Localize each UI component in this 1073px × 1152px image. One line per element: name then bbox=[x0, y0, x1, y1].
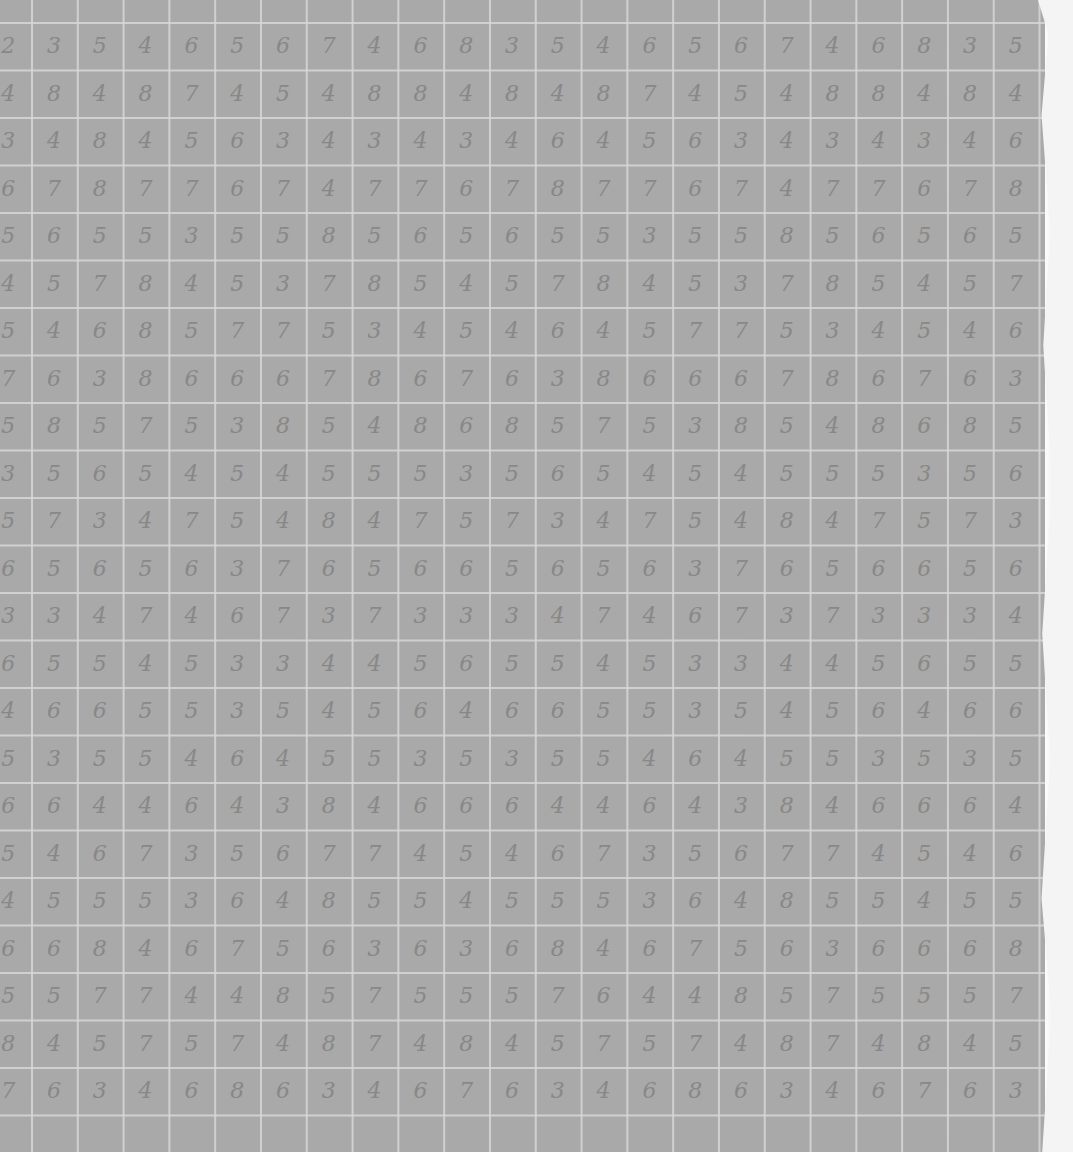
digit-cell: 4 bbox=[581, 307, 627, 354]
digit-cell: 7 bbox=[443, 355, 489, 402]
digit-cell: 4 bbox=[397, 830, 443, 877]
digit-cell: 4 bbox=[718, 735, 764, 782]
digit-cell: 3 bbox=[718, 640, 764, 687]
digit-cell: 6 bbox=[0, 640, 31, 687]
digit-cell: 8 bbox=[993, 925, 1039, 972]
digit-cell: 4 bbox=[810, 782, 856, 829]
digit-cell: 4 bbox=[855, 830, 901, 877]
digit-cell: 5 bbox=[581, 735, 627, 782]
digit-cell: 6 bbox=[397, 1067, 443, 1114]
digit-cell: 4 bbox=[489, 1020, 535, 1067]
digit-cell: 4 bbox=[810, 1067, 856, 1114]
digit-cell: 6 bbox=[77, 545, 123, 592]
digit-cell: 7 bbox=[123, 165, 169, 212]
digit-cell: 5 bbox=[214, 260, 260, 307]
digit-cell: 8 bbox=[581, 355, 627, 402]
digit-cell: 5 bbox=[947, 640, 993, 687]
digit-cell: 7 bbox=[672, 1020, 718, 1067]
digit-cell: 7 bbox=[260, 307, 306, 354]
digit-cell: 5 bbox=[0, 212, 31, 259]
digit-cell: 4 bbox=[352, 402, 398, 449]
digit-cell: 3 bbox=[31, 22, 77, 69]
digit-cell: 6 bbox=[31, 1067, 77, 1114]
digit-cell: 3 bbox=[352, 307, 398, 354]
digit-cell: 7 bbox=[0, 1067, 31, 1114]
digit-cell: 8 bbox=[764, 497, 810, 544]
digit-cell: 3 bbox=[77, 355, 123, 402]
digit-cell: 5 bbox=[168, 402, 214, 449]
digit-cell: 8 bbox=[764, 782, 810, 829]
digit-cell: 7 bbox=[306, 830, 352, 877]
digit-cell: 6 bbox=[0, 925, 31, 972]
digit-cell: 5 bbox=[764, 735, 810, 782]
digit-cell: 4 bbox=[397, 117, 443, 164]
digit-cell: 7 bbox=[489, 497, 535, 544]
digit-cell: 4 bbox=[77, 782, 123, 829]
digit-cell: 5 bbox=[77, 1020, 123, 1067]
digit-cell: 7 bbox=[581, 830, 627, 877]
digit-cell: 8 bbox=[306, 212, 352, 259]
digit-cell: 5 bbox=[718, 687, 764, 734]
digit-cell: 7 bbox=[77, 972, 123, 1019]
digit-cell: 4 bbox=[306, 70, 352, 117]
digit-cell: 5 bbox=[214, 830, 260, 877]
digit-cell: 3 bbox=[810, 925, 856, 972]
digit-cell: 4 bbox=[123, 117, 169, 164]
digit-cell: 7 bbox=[810, 830, 856, 877]
digit-cell: 6 bbox=[993, 307, 1039, 354]
digit-cell: 7 bbox=[31, 497, 77, 544]
digit-cell: 7 bbox=[581, 165, 627, 212]
digit-cell: 5 bbox=[810, 877, 856, 924]
digit-cell: 5 bbox=[718, 70, 764, 117]
digit-cell: 3 bbox=[489, 592, 535, 639]
digit-cell: 8 bbox=[31, 70, 77, 117]
digit-cell: 6 bbox=[489, 782, 535, 829]
digit-cell: 3 bbox=[306, 1067, 352, 1114]
digit-cell: 3 bbox=[901, 592, 947, 639]
digit-cell: 3 bbox=[672, 687, 718, 734]
digit-cell: 7 bbox=[718, 545, 764, 592]
digit-cell: 5 bbox=[855, 972, 901, 1019]
digit-cell: 3 bbox=[260, 640, 306, 687]
digit-cell: 5 bbox=[947, 260, 993, 307]
digit-cell: 4 bbox=[443, 877, 489, 924]
digit-cell: 4 bbox=[168, 972, 214, 1019]
digit-cell: 8 bbox=[764, 1020, 810, 1067]
digit-cell: 5 bbox=[397, 972, 443, 1019]
digit-cell: 3 bbox=[764, 592, 810, 639]
digit-cell: 8 bbox=[810, 355, 856, 402]
digit-cell: 7 bbox=[810, 165, 856, 212]
digit-cell: 5 bbox=[0, 497, 31, 544]
digit-cell: 5 bbox=[947, 450, 993, 497]
digit-cell: 5 bbox=[123, 450, 169, 497]
digit-cell: 7 bbox=[0, 355, 31, 402]
digit-cell: 8 bbox=[489, 70, 535, 117]
digit-cell: 5 bbox=[581, 687, 627, 734]
digit-cell: 3 bbox=[260, 260, 306, 307]
digit-cell: 4 bbox=[581, 640, 627, 687]
digit-cell: 5 bbox=[810, 735, 856, 782]
digit-cell: 7 bbox=[718, 592, 764, 639]
digit-cell: 3 bbox=[718, 782, 764, 829]
digit-cell: 5 bbox=[77, 735, 123, 782]
digit-cell: 4 bbox=[901, 260, 947, 307]
digit-cell: 4 bbox=[993, 70, 1039, 117]
digit-cell: 8 bbox=[123, 260, 169, 307]
digit-cell: 5 bbox=[214, 450, 260, 497]
digit-cell: 7 bbox=[764, 830, 810, 877]
digit-cell: 8 bbox=[352, 70, 398, 117]
digit-cell: 8 bbox=[993, 165, 1039, 212]
digit-cell: 4 bbox=[77, 70, 123, 117]
digit-cell: 8 bbox=[855, 70, 901, 117]
digit-cell: 4 bbox=[214, 972, 260, 1019]
digit-cell: 5 bbox=[901, 830, 947, 877]
digit-cell: 3 bbox=[993, 355, 1039, 402]
digit-cell: 5 bbox=[168, 687, 214, 734]
digit-cell: 6 bbox=[947, 925, 993, 972]
digit-cell: 5 bbox=[672, 497, 718, 544]
digit-cell: 7 bbox=[306, 355, 352, 402]
digit-cell: 5 bbox=[352, 212, 398, 259]
digit-cell: 5 bbox=[443, 735, 489, 782]
digit-cell: 2 bbox=[0, 22, 31, 69]
digit-cell: 7 bbox=[306, 22, 352, 69]
